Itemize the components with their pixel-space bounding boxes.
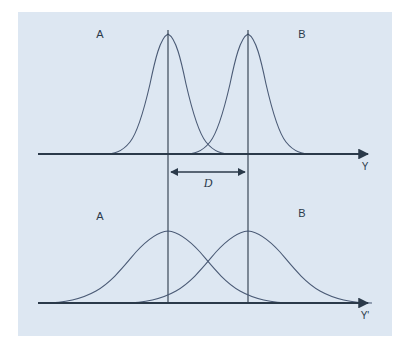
bottom-axis-label: Y' [361, 310, 370, 321]
top-axis-label: Y [362, 161, 369, 172]
top-group-label-b: B [298, 28, 305, 40]
distribution-diagram: Y A B D Y' A B [0, 0, 409, 349]
bottom-group-label-b: B [298, 207, 305, 219]
figure-root: Y A B D Y' A B [0, 0, 409, 349]
bottom-group-label-a: A [96, 210, 104, 222]
top-group-label-a: A [96, 28, 104, 40]
distance-label-d: D [203, 176, 213, 190]
figure-panel-background [18, 12, 392, 336]
